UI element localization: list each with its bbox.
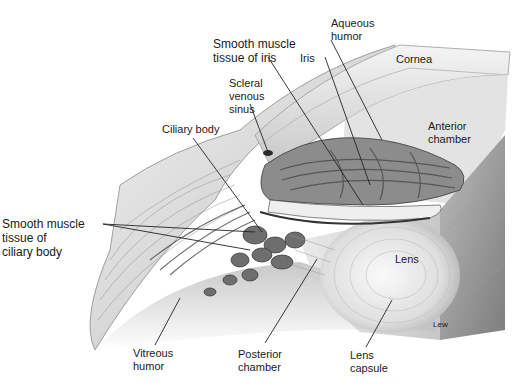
lens-shape: [320, 217, 460, 333]
eye-anatomy-diagram: Aqueous humor Smooth muscle tissue of ir…: [0, 0, 524, 386]
label-cornea: Cornea: [396, 53, 432, 66]
label-anterior-chamber: Anterior chamber: [428, 120, 471, 146]
label-aqueous-humor: Aqueous humor: [331, 17, 374, 43]
label-smooth-muscle-iris: Smooth muscle tissue of iris: [213, 37, 296, 65]
label-vitreous-humor: Vitreous humor: [133, 347, 173, 373]
label-ciliary-body: Ciliary body: [162, 123, 219, 136]
label-posterior-chamber: Posterior chamber: [238, 348, 282, 374]
label-lens-capsule: Lens capsule: [350, 349, 388, 375]
label-lens: Lens: [395, 253, 419, 266]
label-smooth-muscle-ciliary-body: Smooth muscle tissue of ciliary body: [2, 217, 85, 259]
label-scleral-venous-sinus: Scleral venous sinus: [229, 77, 264, 116]
artist-signature: Lew: [433, 320, 448, 329]
label-iris: Iris: [300, 52, 315, 65]
